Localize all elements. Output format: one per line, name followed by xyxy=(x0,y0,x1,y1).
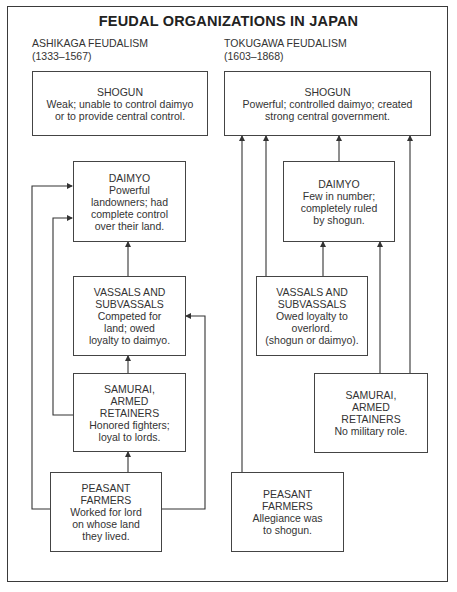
ashikaga-peasants-box: PEASANT FARMERS Worked for lord on whose… xyxy=(50,472,162,552)
box-description: Powerful; controlled daimyo; created str… xyxy=(243,98,413,122)
box-title: VASSALS AND SUBVASSALS xyxy=(94,286,166,310)
box-title: DAIMYO xyxy=(318,178,359,190)
tokugawa-vassals-box: VASSALS AND SUBVASSALS Owed loyalty to o… xyxy=(256,276,368,356)
ashikaga-daimyo-box: DAIMYO Powerful landowners; had complete… xyxy=(73,161,186,242)
box-description: Owed loyalty to overlord. (shogun or dai… xyxy=(265,310,358,346)
box-description: Allegiance was to shogun. xyxy=(252,512,322,536)
box-description: Few in number; completely ruled by shogu… xyxy=(301,190,377,226)
box-title: VASSALS AND SUBVASSALS xyxy=(276,286,348,310)
box-title: PEASANT FARMERS xyxy=(81,482,132,506)
box-description: No military role. xyxy=(335,425,408,437)
box-description: Weak; unable to control daimyo or to pro… xyxy=(47,98,194,122)
box-title: DAIMYO xyxy=(109,172,150,184)
tokugawa-peasants-box: PEASANT FARMERS Allegiance was to shogun… xyxy=(231,472,344,552)
tokugawa-daimyo-box: DAIMYO Few in number; completely ruled b… xyxy=(283,161,395,242)
box-description: Worked for lord on whose land they lived… xyxy=(70,506,142,542)
box-description: Competed for land; owed loyalty to daimy… xyxy=(89,310,170,346)
box-title: PEASANT FARMERS xyxy=(262,488,313,512)
box-title: SAMURAI, ARMED RETAINERS xyxy=(341,389,400,425)
tokugawa-shogun-box: SHOGUN Powerful; controlled daimyo; crea… xyxy=(224,71,431,136)
box-description: Honored fighters; loyal to lords. xyxy=(89,419,170,443)
tokugawa-samurai-box: SAMURAI, ARMED RETAINERS No military rol… xyxy=(314,373,428,453)
box-title: SHOGUN xyxy=(304,86,350,98)
box-description: Powerful landowners; had complete contro… xyxy=(91,184,168,232)
box-title: SAMURAI, ARMED RETAINERS xyxy=(100,383,159,419)
ashikaga-vassals-box: VASSALS AND SUBVASSALS Competed for land… xyxy=(73,276,186,356)
ashikaga-shogun-box: SHOGUN Weak; unable to control daimyo or… xyxy=(32,71,208,136)
ashikaga-samurai-box: SAMURAI, ARMED RETAINERS Honored fighter… xyxy=(73,373,186,452)
box-title: SHOGUN xyxy=(97,86,143,98)
